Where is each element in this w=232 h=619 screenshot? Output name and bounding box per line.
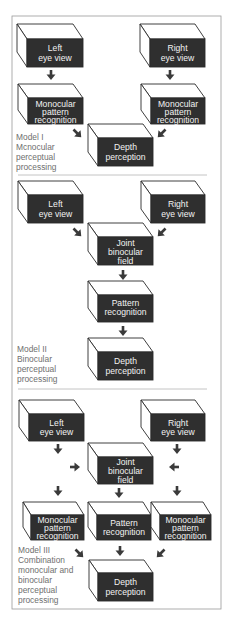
box-label-line: eye view — [40, 427, 74, 437]
box-label-line: field — [118, 256, 134, 266]
model-3: Left eye view Right eye view Joint binoc… — [18, 400, 211, 605]
perceptual-processing-diagram: Left eye view Right eye view Monocular p… — [0, 0, 232, 619]
arrow-diagonal-icon — [154, 546, 168, 560]
model-label-line: monocular and — [18, 565, 74, 575]
box-label-line: recognition — [36, 531, 78, 541]
box-label-line: Depth — [114, 142, 137, 152]
box-label-line: eye view — [161, 427, 195, 437]
box-label-line: Depth — [114, 577, 137, 587]
model-label-line: processing — [16, 162, 57, 172]
model-1-right-monocular-box: Monocular pattern recognition — [141, 84, 205, 125]
model-label-line: Combination — [18, 555, 65, 565]
arrow-diagonal-icon — [72, 546, 86, 560]
arrow-down-icon — [173, 486, 182, 496]
model-label-line: perceptual — [18, 585, 57, 595]
arrow-down-icon — [54, 486, 63, 496]
arrow-diagonal-icon — [70, 126, 84, 140]
box-label-line: eye view — [39, 209, 73, 219]
arrow-down-icon — [116, 546, 125, 556]
arrow-diagonal-icon — [155, 225, 169, 239]
arrow-down-icon — [173, 444, 182, 454]
arrow-down-icon — [166, 70, 175, 80]
model-label-line: processing — [18, 595, 59, 605]
box-label-line: perception — [105, 152, 145, 162]
model-3-depth-perception-box: Depth perception — [89, 560, 153, 601]
box-label-line: eye view — [38, 53, 72, 63]
box-label-line: recognition — [34, 115, 76, 125]
model-2-joint-binocular-field-box: Joint binocular field — [88, 223, 153, 266]
arrow-diagonal-icon — [70, 225, 84, 239]
box-label-line: eye view — [161, 209, 195, 219]
box-label-line: Left — [48, 199, 63, 209]
model-label-line: Mcnocular — [16, 142, 55, 152]
model-label-line: perceptual — [17, 364, 56, 374]
model-label-line: Model I — [16, 132, 43, 142]
model-label-line: Model II — [17, 344, 47, 354]
box-label-line: perception — [105, 587, 145, 597]
box-label-line: perception — [105, 366, 145, 376]
model-2-pattern-recognition-box: Pattern recognition — [88, 281, 153, 322]
model-3-right-monocular-box: Monocular pattern recognition — [151, 502, 211, 541]
box-label-line: Left — [48, 43, 63, 53]
arrow-down-icon — [47, 70, 56, 80]
model-1-depth-perception-box: Depth perception — [88, 124, 153, 166]
model-1-left-monocular-box: Monocular pattern recognition — [18, 84, 83, 125]
box-label-line: recognition — [104, 307, 146, 317]
model-2: Left eye view Right eye view Joint binoc… — [17, 181, 205, 384]
model-1: Left eye view Right eye view Monocular p… — [16, 24, 205, 172]
model-2-right-eye-view-box: Right eye view — [141, 181, 205, 223]
arrow-down-icon — [119, 270, 128, 280]
box-label-line: recognition — [103, 527, 145, 537]
model-1-left-eye-view-box: Left eye view — [17, 24, 83, 67]
arrow-left-icon — [169, 463, 179, 472]
model-2-left-eye-view-box: Left eye view — [18, 181, 83, 223]
model-2-label: Model II Binocular perceptual processing — [17, 344, 58, 384]
box-label-line: Depth — [114, 356, 137, 366]
box-label-line: recognition — [157, 115, 199, 125]
model-label-line: Model III — [18, 545, 50, 555]
model-label-line: processing — [17, 374, 58, 384]
model-3-pattern-recognition-box: Pattern recognition — [88, 502, 151, 540]
arrow-right-icon — [70, 463, 80, 472]
arrow-diagonal-icon — [155, 126, 169, 140]
model-1-label: Model I Mcnocular perceptual processing — [16, 132, 57, 172]
box-label-line: eye view — [161, 53, 195, 63]
box-label-line: recognition — [164, 531, 206, 541]
box-label-line: field — [118, 475, 134, 485]
model-3-left-monocular-box: Monocular pattern recognition — [23, 502, 84, 541]
model-3-label: Model III Combination monocular and bino… — [18, 545, 74, 605]
model-label-line: perceptual — [16, 152, 55, 162]
model-3-joint-binocular-field-box: Joint binocular field — [88, 443, 153, 485]
model-label-line: Binocular — [17, 354, 52, 364]
box-label-line: Right — [167, 43, 188, 53]
model-1-right-eye-view-box: Right eye view — [140, 24, 205, 67]
arrow-down-icon — [115, 488, 124, 498]
arrow-down-icon — [54, 444, 63, 454]
model-3-right-eye-view-box: Right eye view — [141, 400, 205, 441]
model-label-line: binocular — [18, 575, 52, 585]
arrow-down-icon — [119, 326, 128, 336]
model-2-depth-perception-box: Depth perception — [88, 338, 153, 380]
model-3-left-eye-view-box: Left eye view — [19, 400, 84, 441]
box-label-line: Right — [168, 199, 189, 209]
